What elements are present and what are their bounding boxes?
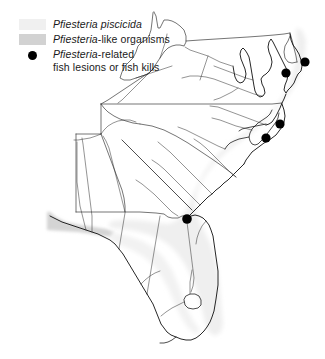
legend-italic-text-2: Pfiesteria <box>53 48 98 60</box>
state-border-virginia-northcarolina <box>101 103 282 104</box>
state-border-florida-georgia <box>76 212 189 218</box>
state-border-maryland-pennsylvania <box>290 33 297 62</box>
legend-italic-text-1: Pfiesteria <box>53 33 98 45</box>
river-savannah <box>122 140 192 210</box>
legend-item-pfiesteria-related-fish-kills: Pfiesteria-relatedfish lesions or fish k… <box>19 48 191 73</box>
river-neuse <box>178 127 225 149</box>
legend-label-line2: fish lesions or fish kills <box>53 61 159 74</box>
legend-label-pfiesteria-like-organisms: Pfiesteria-like organisms <box>53 33 170 46</box>
occurrence-dot-north-carolina-pamlico <box>275 119 284 128</box>
state-border-georgia-alabama <box>101 134 125 212</box>
legend-label-pfiesteria-related: Pfiesteria-relatedfish lesions or fish k… <box>53 48 159 73</box>
river-potomac <box>185 47 232 66</box>
state-border-nc-sc <box>140 124 236 177</box>
legend-label-pfiesteria-piscicida: Pfiesteria piscicida <box>53 18 142 31</box>
legend-swatch-pfiesteria-like-organisms <box>19 34 46 45</box>
river-alabama <box>82 138 92 232</box>
coastline-florida-keys <box>160 337 176 343</box>
river-pee-dee <box>158 142 212 194</box>
gulf-panhandle-like-organisms-band <box>47 212 114 237</box>
legend-swatch-wrap-dot <box>19 48 46 60</box>
state-border-delaware <box>284 36 297 63</box>
river-roanoke <box>210 106 266 125</box>
pfiesteria-distribution-figure: Pfiesteria piscicida Pfiesteria-like org… <box>0 0 325 359</box>
legend-swatch-pfiesteria-piscicida <box>19 19 46 30</box>
state-border-tennessee-northcarolina <box>101 104 140 124</box>
legend-roman-text-1: -like organisms <box>98 33 170 45</box>
coastline-carolina-south <box>185 164 244 220</box>
legend-item-pfiesteria-like-organisms: Pfiesteria-like organisms <box>19 33 191 46</box>
river-tennessee-bend <box>74 134 101 140</box>
occurrence-dot-northeast-florida <box>182 214 192 224</box>
occurrence-dot-chesapeake-upper-delmarva <box>300 57 309 66</box>
legend-item-pfiesteria-piscicida: Pfiesteria piscicida <box>19 18 191 31</box>
occurrence-dot-north-carolina-neuse <box>261 133 270 142</box>
occurrence-dot-chesapeake-lower-bay <box>281 68 290 77</box>
map-legend: Pfiesteria piscicida Pfiesteria-like org… <box>19 18 191 75</box>
legend-roman-text-2: -related <box>98 48 134 60</box>
river-appomattox <box>214 88 238 100</box>
legend-italic-text-0: Pfiesteria piscicida <box>53 18 142 30</box>
river-altamaha <box>136 180 178 216</box>
state-outline-maryland-delaware <box>186 33 290 41</box>
legend-dot-marker-icon <box>28 51 37 60</box>
